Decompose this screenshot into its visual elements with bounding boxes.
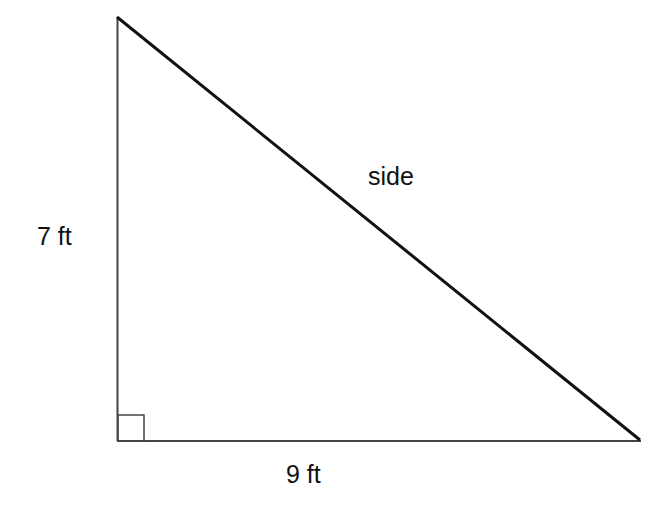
horizontal-leg-label: 9 ft: [286, 462, 321, 487]
vertical-leg-label: 7 ft: [37, 224, 72, 249]
triangle-figure: [0, 0, 671, 507]
hypotenuse-label: side: [368, 164, 414, 189]
hypotenuse: [117, 17, 640, 440]
right-angle-marker: [118, 415, 144, 441]
